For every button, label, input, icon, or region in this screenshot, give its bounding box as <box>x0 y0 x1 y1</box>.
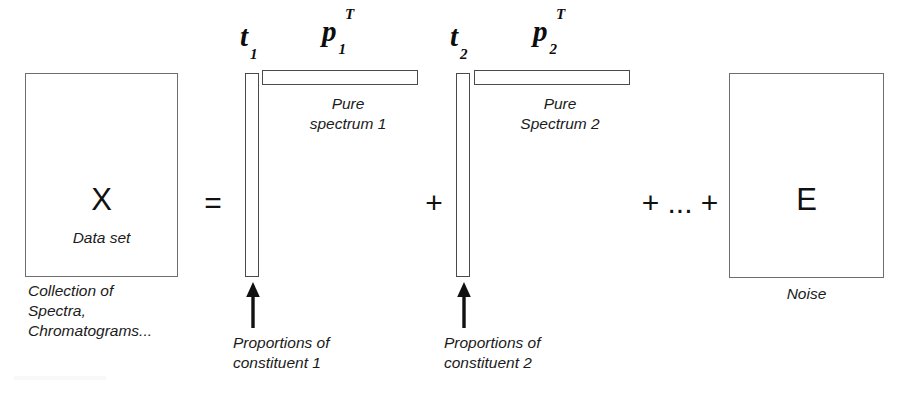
data-matrix-caption: Data set <box>25 228 178 248</box>
loading-symbol-2-subscript: 2 <box>550 41 558 57</box>
score-bar-2 <box>456 73 470 277</box>
plus-ellipsis-plus-operator: + ... + <box>636 188 724 218</box>
residual-symbol: E <box>729 182 884 218</box>
diagram-canvas: X Data set Collection of Spectra, Chroma… <box>0 0 902 396</box>
loading-caption-1: Pure spectrum 1 <box>268 94 428 134</box>
score-symbol-2: t2 <box>450 22 466 56</box>
score-arrow-2 <box>454 282 474 328</box>
score-symbol-2-subscript: 2 <box>460 46 468 62</box>
loading-caption-2: Pure Spectrum 2 <box>480 94 640 134</box>
loading-symbol-1: p1T <box>322 17 353 51</box>
score-arrow-1 <box>243 282 263 328</box>
data-matrix-footnote: Collection of Spectra, Chromatograms... <box>28 281 228 341</box>
score-symbol-1: t1 <box>240 22 256 56</box>
score-symbol-1-subscript: 1 <box>250 46 258 62</box>
scan-artifact <box>14 376 106 380</box>
data-matrix-symbol: X <box>25 182 178 218</box>
loading-symbol-1-subscript: 1 <box>339 41 347 57</box>
score-caption-1: Proportions of constituent 1 <box>233 333 423 373</box>
loading-symbol-2-base: p <box>533 15 548 47</box>
loading-bar-2 <box>474 70 630 85</box>
score-symbol-2-base: t <box>450 20 458 52</box>
loading-symbol-2-superscript: T <box>556 6 565 22</box>
loading-symbol-2: p2T <box>533 17 564 51</box>
equals-operator: = <box>200 188 226 218</box>
loading-symbol-1-base: p <box>322 15 337 47</box>
loading-bar-1 <box>262 70 418 85</box>
score-bar-1 <box>245 73 259 277</box>
residual-caption: Noise <box>729 284 884 304</box>
loading-symbol-1-superscript: T <box>345 6 354 22</box>
score-symbol-1-base: t <box>240 20 248 52</box>
residual-matrix-box <box>729 73 884 278</box>
plus-operator-1: + <box>420 188 448 218</box>
score-caption-2: Proportions of constituent 2 <box>444 333 634 373</box>
